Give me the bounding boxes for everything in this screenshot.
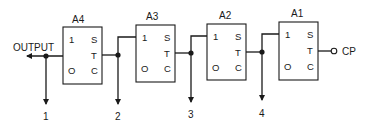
stage-a3: A3 1 O S T C	[136, 11, 175, 82]
pin-o: O	[284, 61, 291, 72]
stage-a4: A4 1 O S T C	[63, 14, 102, 84]
pin-1: 1	[285, 29, 290, 40]
pin-o: O	[68, 65, 75, 76]
pin-c: C	[235, 62, 242, 73]
pin-c: C	[91, 65, 98, 76]
pin-s: S	[164, 32, 170, 43]
tap-3-label: 3	[188, 109, 194, 120]
wire	[118, 37, 136, 55]
pin-c: C	[307, 61, 314, 72]
wire	[262, 34, 279, 52]
pin-s: S	[307, 29, 313, 40]
clock-terminal-icon	[331, 48, 337, 54]
pin-t: T	[164, 48, 170, 59]
stage-a2: A2 1 O S T C	[207, 10, 246, 80]
pin-s: S	[235, 31, 241, 42]
output-label: OUTPUT	[13, 42, 54, 53]
pin-1: 1	[213, 31, 218, 42]
pin-t: T	[235, 47, 241, 58]
pin-c: C	[164, 63, 171, 74]
stage-a1: A1 1 O S T C	[279, 8, 318, 80]
wire	[191, 36, 207, 53]
tap-4-label: 4	[259, 108, 265, 119]
counter-diagram: OUTPUT 1 A4 1 O S T C 2 A3 1 O S T C 3 A…	[0, 0, 371, 127]
pin-1: 1	[69, 34, 74, 45]
tap-2-label: 2	[115, 111, 121, 122]
stage-a3-label: A3	[146, 11, 159, 22]
pin-t: T	[91, 50, 97, 61]
pin-1: 1	[142, 32, 147, 43]
stage-a2-label: A2	[219, 10, 232, 21]
clock-label: CP	[342, 46, 356, 57]
pin-o: O	[212, 62, 219, 73]
pin-o: O	[141, 63, 148, 74]
pin-t: T	[307, 45, 313, 56]
stage-a4-label: A4	[72, 14, 85, 25]
stage-a1-label: A1	[291, 8, 304, 19]
pin-s: S	[91, 34, 97, 45]
tap-1-label: 1	[43, 111, 49, 122]
